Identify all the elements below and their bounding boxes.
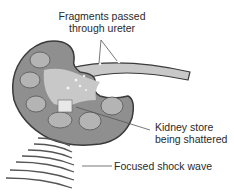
fragments-label: Fragments passed through ureter [56,10,148,34]
calyx [20,72,40,88]
calyx [79,112,101,130]
shock-wave-arcs [6,138,74,188]
calyx [101,97,123,115]
kidney-stone-label-line2: being shattered [155,133,227,145]
fragments-label-line2: through ureter [56,22,148,34]
calyx [30,52,50,68]
kidney-stone-label-line1: Kidney store [155,121,227,133]
kidney-stone [58,100,72,112]
calyx [48,112,72,128]
calyx [26,96,46,112]
fragments-leader [99,40,117,63]
fragments-label-line1: Fragments passed [56,10,148,22]
shock-wave-label: Focused shock wave [114,160,212,172]
kidney-stone-label: Kidney store being shattered [155,121,227,145]
